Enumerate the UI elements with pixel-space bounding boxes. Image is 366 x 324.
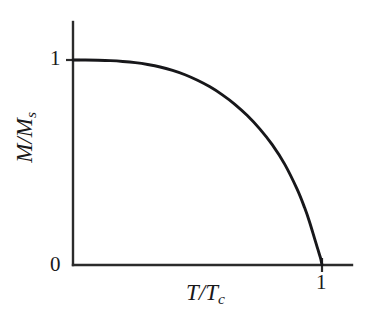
magnetization-curve bbox=[73, 60, 322, 265]
y-axis-tick-label-0: 0 bbox=[50, 254, 61, 275]
x-axis-title-main: T/T bbox=[186, 280, 218, 305]
y-axis-title-inner: M/Ms bbox=[13, 112, 39, 163]
y-axis-title: M/Ms bbox=[13, 61, 39, 112]
y-axis-tick-label-1: 1 bbox=[50, 48, 61, 69]
x-axis-tick-label-1: 1 bbox=[316, 272, 327, 293]
x-axis-title: T/Tc bbox=[186, 281, 225, 307]
y-axis-title-main: M/M bbox=[12, 118, 37, 163]
magnetization-figure: 1 0 1 T/Tc M/Ms bbox=[0, 0, 366, 324]
x-axis-title-subscript: c bbox=[218, 290, 225, 307]
y-axis-title-subscript: s bbox=[22, 112, 39, 118]
